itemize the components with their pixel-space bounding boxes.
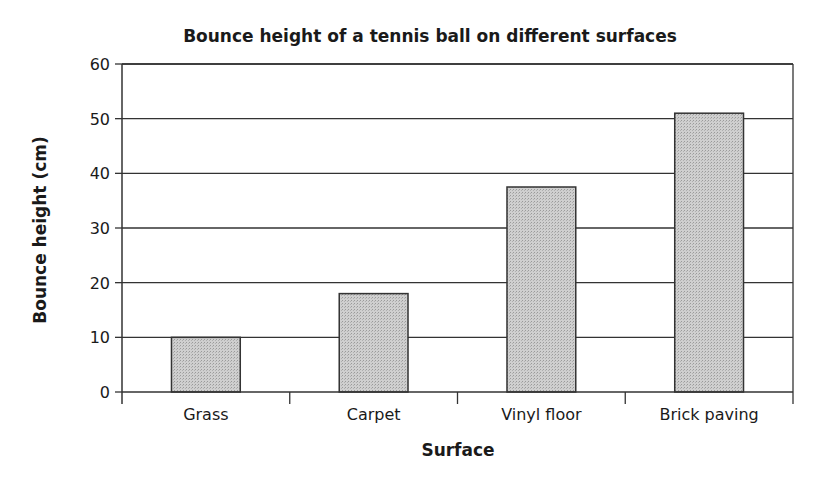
x-tick-label: Carpet — [347, 405, 401, 424]
bar-vinyl-floor — [507, 187, 576, 392]
bar-grass — [171, 337, 240, 392]
y-axis-ticks: 0102030405060 — [90, 55, 122, 402]
x-tick-label: Brick paving — [659, 405, 758, 424]
bar-chart-plot: 0102030405060 GrassCarpetVinyl floorBric… — [0, 0, 823, 489]
y-tick-label: 0 — [100, 383, 110, 402]
y-tick-label: 30 — [90, 219, 110, 238]
x-axis-ticks: GrassCarpetVinyl floorBrick paving — [183, 392, 759, 424]
bar-carpet — [339, 294, 408, 392]
bar-brick-paving — [675, 113, 744, 392]
y-tick-label: 10 — [90, 328, 110, 347]
x-tick-label: Vinyl floor — [501, 405, 582, 424]
x-tick-label: Grass — [183, 405, 228, 424]
y-tick-label: 40 — [90, 164, 110, 183]
y-tick-label: 20 — [90, 274, 110, 293]
bars — [171, 113, 743, 392]
y-tick-label: 50 — [90, 110, 110, 129]
y-tick-label: 60 — [90, 55, 110, 74]
